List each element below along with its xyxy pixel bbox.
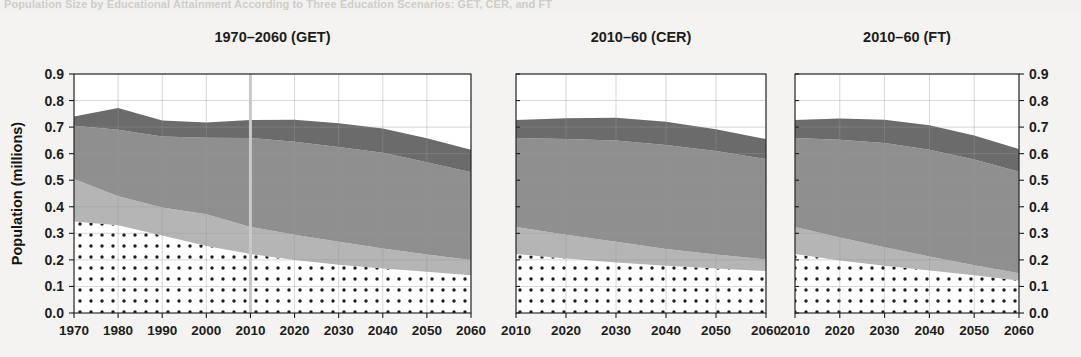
ytick-label-right: 0.6 (1029, 146, 1049, 162)
ytick-label-left: 0.7 (45, 119, 65, 135)
xtick-label: 2060 (456, 323, 486, 338)
panel-title-3: 2010–60 (FT) (863, 29, 951, 45)
panel-2: 2010–60 (CER)201020202030204020502060 (501, 29, 781, 338)
ytick-label-left: 0.3 (45, 225, 65, 241)
xtick-label: 2020 (280, 323, 310, 338)
xtick-label: 2060 (1004, 323, 1034, 338)
figure-caption: Population Size by Educational Attainmen… (4, 0, 704, 10)
xtick-label: 1990 (147, 323, 177, 338)
xtick-label: 2040 (914, 323, 944, 338)
chart-svg: 1970–2060 (GET)1970198019902000201020202… (0, 12, 1081, 357)
ytick-label-right: 0.7 (1029, 119, 1049, 135)
ytick-label-left: 0.2 (45, 252, 65, 268)
ytick-label-left: 0.5 (45, 172, 65, 188)
xtick-label: 2030 (324, 323, 354, 338)
xtick-label: 2050 (959, 323, 989, 338)
xtick-label: 1970 (59, 323, 89, 338)
panels-group: 1970–2060 (GET)1970198019902000201020202… (9, 29, 1049, 338)
xtick-label: 2040 (651, 323, 681, 338)
xtick-label: 2050 (412, 323, 442, 338)
xtick-label: 2000 (191, 323, 221, 338)
ytick-label-right: 0.5 (1029, 172, 1049, 188)
ytick-label-left: 0.6 (45, 146, 65, 162)
xtick-label: 2010 (780, 323, 810, 338)
xtick-label: 2060 (751, 323, 781, 338)
xtick-label: 2040 (368, 323, 398, 338)
xtick-label: 2050 (701, 323, 731, 338)
panel-title-1: 1970–2060 (GET) (214, 29, 330, 45)
ytick-label-right: 0.8 (1029, 93, 1049, 109)
xtick-label: 1980 (103, 323, 133, 338)
xtick-label: 2030 (870, 323, 900, 338)
ytick-label-right: 0.2 (1029, 252, 1049, 268)
xtick-label: 2020 (551, 323, 581, 338)
xtick-label: 2010 (235, 323, 265, 338)
ytick-label-right: 0.0 (1029, 305, 1049, 321)
ytick-label-left: 0.0 (45, 305, 65, 321)
ytick-label-right: 0.3 (1029, 225, 1049, 241)
figure-container: 1970–2060 (GET)1970198019902000201020202… (0, 12, 1081, 357)
ytick-label-right: 0.1 (1029, 278, 1049, 294)
ytick-label-right: 0.9 (1029, 66, 1049, 82)
ytick-label-left: 0.8 (45, 93, 65, 109)
ytick-label-left: 0.9 (45, 66, 65, 82)
ytick-label-left: 0.1 (45, 278, 65, 294)
xtick-label: 2010 (501, 323, 531, 338)
y-axis-label: Population (millions) (9, 122, 25, 266)
ytick-label-right: 0.4 (1029, 199, 1049, 215)
xtick-label: 2020 (825, 323, 855, 338)
ytick-label-left: 0.4 (45, 199, 65, 215)
panel-3: 2010–60 (FT)201020202030204020502060 (780, 29, 1034, 338)
panel-title-2: 2010–60 (CER) (591, 29, 692, 45)
panel-1: 1970–2060 (GET)1970198019902000201020202… (59, 29, 486, 338)
xtick-label: 2030 (601, 323, 631, 338)
